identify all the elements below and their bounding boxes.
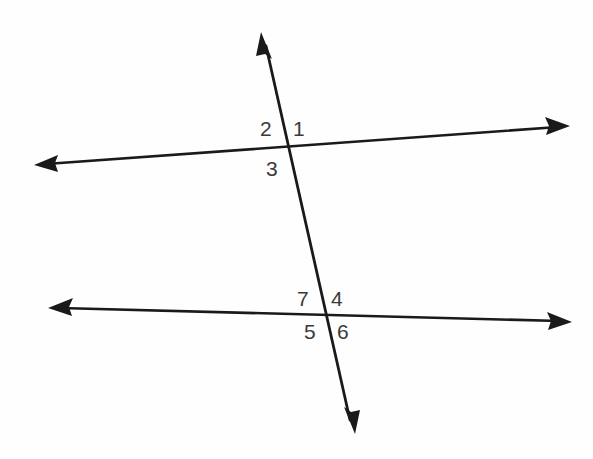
- upper-line-left-arrowhead: [34, 155, 58, 172]
- angle-label-3: 3: [266, 158, 278, 179]
- angle-label-2: 2: [260, 118, 272, 139]
- upper-line-right-arrowhead: [545, 117, 570, 135]
- transversal-bottom-arrowhead: [344, 407, 360, 434]
- angle-label-6: 6: [337, 321, 349, 342]
- angle-diagram-figure: 1 2 3 4 5 6 7: [0, 0, 593, 459]
- diagram-canvas: [0, 0, 593, 459]
- transversal-line: [256, 32, 360, 434]
- angle-label-5: 5: [304, 321, 316, 342]
- angle-label-7: 7: [297, 288, 309, 309]
- transversal-shaft: [266, 46, 350, 420]
- transversal-top-arrowhead: [256, 32, 272, 59]
- angle-label-1: 1: [293, 118, 305, 139]
- angle-label-4: 4: [331, 288, 343, 309]
